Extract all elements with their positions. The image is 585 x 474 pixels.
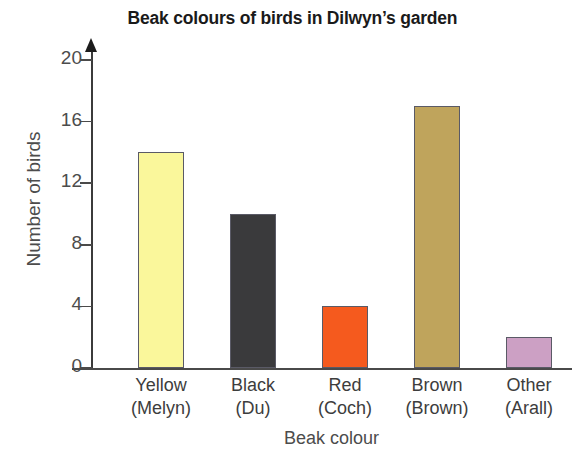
bar-brown: [414, 106, 460, 368]
bar-red: [322, 306, 368, 368]
y-axis-tick-label: 0: [36, 355, 82, 377]
bar-yellow: [138, 152, 184, 368]
bar-black: [230, 214, 276, 368]
bar-chart-figure: Beak colours of birds in Dilwyn’s garden…: [0, 0, 585, 474]
y-axis-title: Number of birds: [23, 99, 45, 299]
bar-other: [506, 337, 552, 368]
x-axis-label-welsh: (Arall): [474, 397, 584, 420]
x-axis-label-english: Other: [474, 374, 584, 397]
x-axis-label-other: Other(Arall): [474, 374, 584, 420]
y-axis-tick-label: 20: [36, 47, 82, 69]
plot-area: [92, 60, 571, 368]
x-axis-title: Beak colour: [92, 428, 571, 449]
